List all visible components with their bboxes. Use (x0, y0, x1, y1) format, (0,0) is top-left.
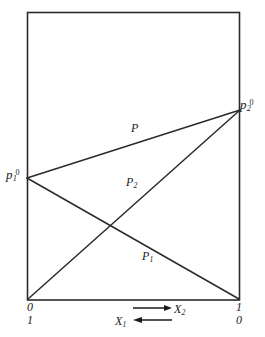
axis-value-bottom-right-bottom: 0 (236, 314, 242, 327)
x1-arrow (133, 317, 172, 323)
label-line-P1: P1 (142, 250, 153, 264)
label-line-P: P (131, 122, 138, 136)
x2-arrow (133, 305, 172, 311)
label-p2-zero: p20 (240, 98, 254, 114)
axis-values-bottom-right: 1 0 (236, 301, 242, 327)
line-P2 (28, 110, 240, 299)
label-p1-zero: p10 (6, 168, 20, 184)
diagram-canvas (0, 0, 265, 337)
label-line-P-main: P (131, 121, 138, 135)
label-x2: X2 (174, 303, 185, 317)
box-outline (28, 13, 240, 301)
label-line-P2-sub: 2 (133, 181, 137, 190)
label-x2-sub: 2 (181, 308, 185, 317)
label-x1: X1 (115, 315, 126, 329)
label-p1-zero-sup: 0 (16, 168, 20, 177)
label-line-P2: P2 (126, 176, 137, 190)
axis-values-bottom-left: 0 1 (27, 301, 33, 327)
label-line-P1-sub: 1 (149, 255, 153, 264)
label-p1-zero-main: p (6, 167, 13, 182)
figure-container: p10 p20 P P2 P1 0 1 1 0 X2 X1 (0, 0, 265, 337)
label-p2-zero-sup: 0 (250, 98, 254, 107)
axis-value-bottom-left-bottom: 1 (27, 314, 33, 327)
line-P1 (27, 178, 239, 299)
label-x1-sub: 1 (122, 320, 126, 329)
label-p2-zero-main: p (240, 97, 247, 112)
